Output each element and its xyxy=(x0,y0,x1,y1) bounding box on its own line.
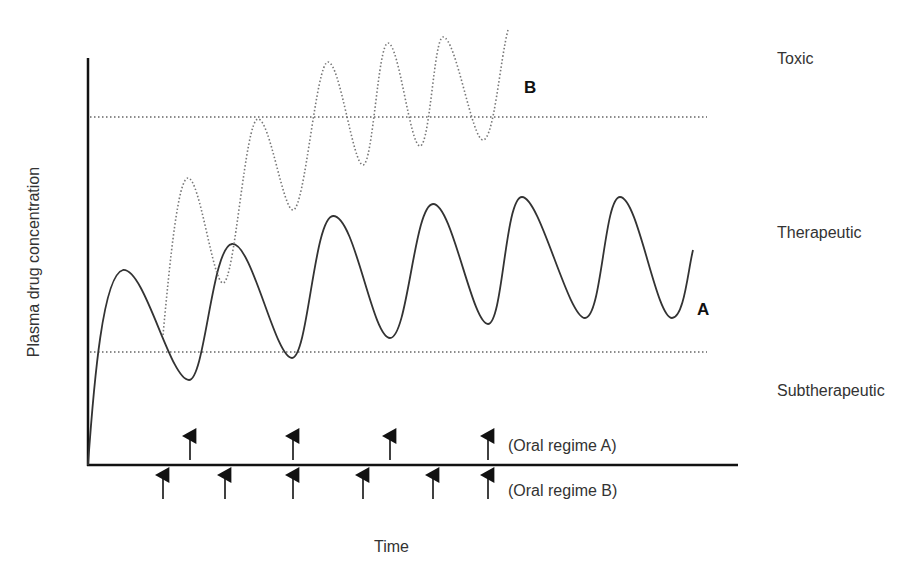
regime-b-dose-markers xyxy=(163,475,488,499)
regime-a-dose-markers xyxy=(190,436,488,460)
curve-b-label: B xyxy=(524,78,536,98)
zone-label-therapeutic: Therapeutic xyxy=(777,224,862,242)
curve-b xyxy=(163,30,508,335)
zone-label-subtherapeutic: Subtherapeutic xyxy=(777,382,885,400)
zone-label-toxic: Toxic xyxy=(777,50,813,68)
curve-a xyxy=(88,197,693,465)
regime-a-label: (Oral regime A) xyxy=(508,437,616,455)
y-axis-label: Plasma drug concentration xyxy=(25,167,43,357)
regime-b-label: (Oral regime B) xyxy=(508,482,617,500)
chart-canvas xyxy=(0,0,918,581)
curve-a-label: A xyxy=(697,300,709,320)
x-axis-label: Time xyxy=(374,538,409,556)
